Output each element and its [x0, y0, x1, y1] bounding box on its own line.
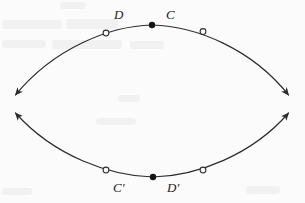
filled-point-marker-lower-mid — [150, 174, 156, 180]
open-point-marker-upper-right — [200, 29, 206, 35]
lens-diagram — [0, 0, 305, 203]
upper-arc-right-half — [152, 25, 289, 95]
open-point-marker-lower-left — [103, 167, 109, 173]
upper-arc-group — [16, 25, 289, 95]
point-label-d-prime: D' — [167, 181, 180, 194]
figure-container: D C C' D' — [0, 0, 305, 203]
upper-arc-left-half — [16, 25, 153, 95]
lower-arc-left-half — [16, 113, 154, 177]
lower-arc-right-half — [153, 113, 289, 177]
point-label-d: D — [114, 8, 124, 21]
filled-point-marker-upper-mid — [149, 22, 155, 28]
lower-arc-group — [16, 113, 289, 177]
open-point-marker-lower-right — [200, 167, 206, 173]
point-label-c-prime: C' — [113, 181, 125, 194]
open-point-marker-upper-left — [103, 30, 109, 36]
point-label-c: C — [166, 8, 175, 21]
